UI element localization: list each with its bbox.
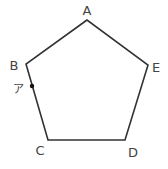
point-label-a-katakana: ア <box>13 83 24 96</box>
point-a-marker <box>30 84 34 88</box>
vertex-label-c: C <box>35 143 44 158</box>
vertex-label-a: A <box>83 3 92 18</box>
vertex-label-b: B <box>10 58 19 73</box>
pentagon-shape <box>26 20 148 140</box>
pentagon-diagram: A B C D E ア <box>0 0 168 169</box>
vertex-label-d: D <box>128 145 138 160</box>
vertex-label-e: E <box>152 60 160 75</box>
